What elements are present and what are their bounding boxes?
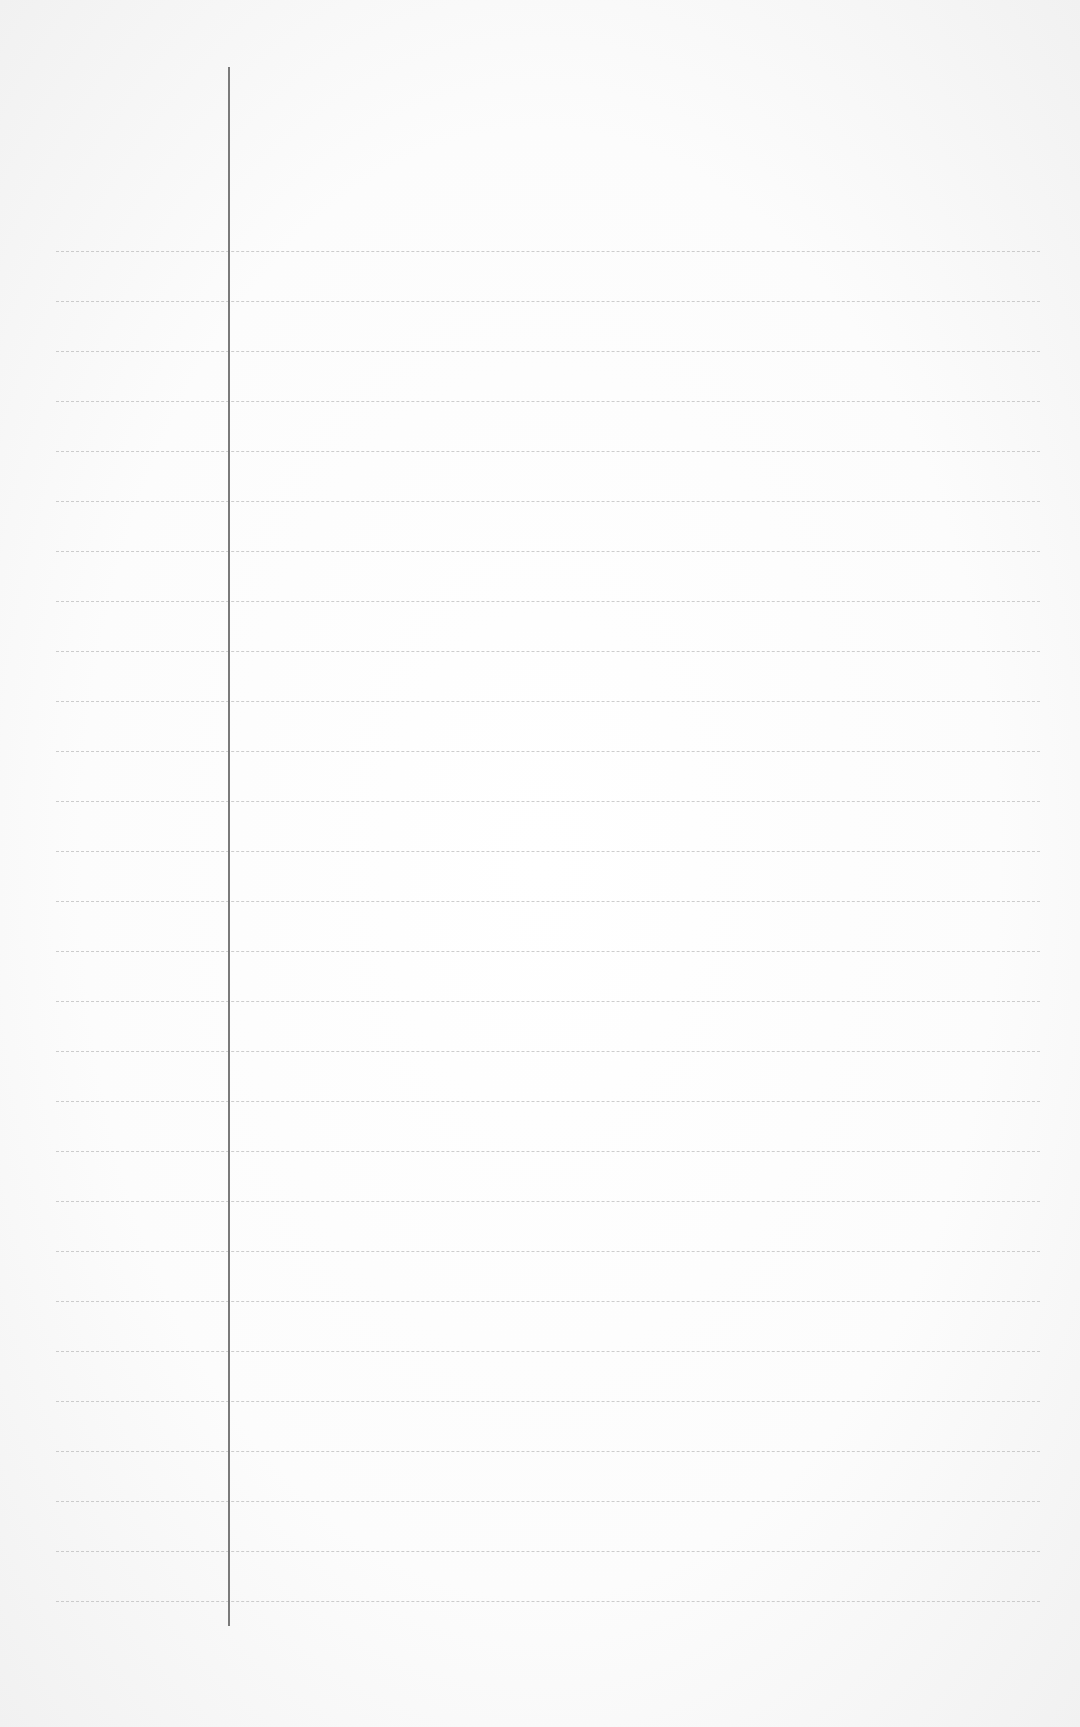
ruled-line — [56, 1001, 1040, 1002]
ruled-line — [56, 1051, 1040, 1052]
ruled-line — [56, 801, 1040, 802]
ruled-line — [56, 1401, 1040, 1402]
ruled-line — [56, 1351, 1040, 1352]
ruled-line — [56, 701, 1040, 702]
ruled-line — [56, 1451, 1040, 1452]
ruled-line — [56, 851, 1040, 852]
ruled-line — [56, 1151, 1040, 1152]
ruled-line — [56, 301, 1040, 302]
ruled-line — [56, 501, 1040, 502]
ruled-line — [56, 651, 1040, 652]
lined-paper-sheet — [0, 0, 1080, 1727]
margin-line — [228, 67, 230, 1626]
ruled-line — [56, 1301, 1040, 1302]
ruled-line — [56, 1201, 1040, 1202]
ruled-line — [56, 401, 1040, 402]
ruled-line — [56, 1601, 1040, 1602]
ruled-line — [56, 1551, 1040, 1552]
ruled-line — [56, 951, 1040, 952]
ruled-line — [56, 1101, 1040, 1102]
ruled-line — [56, 1251, 1040, 1252]
ruled-line — [56, 901, 1040, 902]
ruled-line — [56, 551, 1040, 552]
ruled-line — [56, 351, 1040, 352]
ruled-line — [56, 751, 1040, 752]
ruled-line — [56, 251, 1040, 252]
ruled-line — [56, 601, 1040, 602]
ruled-line — [56, 451, 1040, 452]
ruled-line — [56, 1501, 1040, 1502]
